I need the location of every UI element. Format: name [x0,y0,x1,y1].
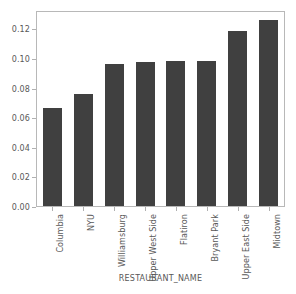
bar-series [37,12,284,206]
y-axis-tick-mark [32,148,36,149]
x-axis-tick-label: Upper West Side [149,214,158,282]
x-axis-title: RESTAURANT_NAME [36,274,285,283]
y-axis-tick-mark [32,118,36,119]
x-axis-tick-label: Columbia [56,214,65,253]
y-axis-tick-label: 0.00 [0,203,30,212]
x-axis-tick-mark [176,207,177,211]
x-axis-tick-label: Upper East Side [242,214,251,279]
bar [136,62,155,206]
bar-chart-figure: 0.000.020.040.060.080.100.12 ColumbiaNYU… [0,0,296,294]
y-axis-tick-label: 0.12 [0,25,30,34]
y-axis-tick-label: 0.02 [0,173,30,182]
bar [105,64,124,206]
x-axis-tick-label: Bryant Park [211,214,220,262]
y-axis-tick-label: 0.04 [0,143,30,152]
x-axis-tick-label: Midtown [273,214,282,249]
bar [228,31,247,206]
plot-area [36,11,285,207]
x-axis-tick-label: Williamsburg [118,214,127,267]
x-axis-tick-mark [269,207,270,211]
bar [166,61,185,206]
y-axis-tick-mark [32,89,36,90]
y-axis-tick-mark [32,59,36,60]
y-axis-tick-label: 0.06 [0,114,30,123]
x-axis-tick-mark [145,207,146,211]
x-axis-tick-mark [238,207,239,211]
y-axis-tick-mark [32,29,36,30]
x-axis-tick-mark [114,207,115,211]
x-axis-tick-label: Flatiron [180,214,189,245]
y-axis-tick-mark [32,177,36,178]
bar [74,94,93,206]
bar [259,20,278,206]
x-axis-tick-mark [83,207,84,211]
y-axis-tick-label: 0.08 [0,84,30,93]
x-axis-tick-mark [207,207,208,211]
bar [43,108,62,206]
x-axis-tick-label: NYU [87,214,96,231]
y-axis-tick-label: 0.10 [0,55,30,64]
x-axis-tick-mark [52,207,53,211]
bar [197,61,216,206]
y-axis-tick-mark [32,207,36,208]
